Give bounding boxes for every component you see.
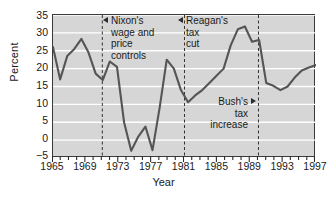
x-tick-label: 1993	[270, 160, 293, 172]
y-tick-label: 20	[26, 62, 48, 72]
y-tick-label: 35	[26, 10, 48, 20]
y-tick-label: 10	[26, 98, 48, 108]
chart-figure: Percent 35 30 25 20 15 10 5 0 −5 1965196…	[0, 0, 327, 197]
y-tick-label: 0	[26, 133, 48, 143]
x-tick-label: 1973	[106, 160, 129, 172]
x-axis-label: Year	[0, 176, 327, 188]
annotation-reagan-line3: cut	[186, 38, 228, 50]
annotation-bush-line2: tax	[190, 108, 248, 120]
annotation-nixon-line3: price	[111, 38, 154, 50]
annotation-nixon: Nixon's wage and price controls	[103, 15, 154, 61]
x-tick-label: 1985	[205, 160, 228, 172]
arrow-left-icon	[103, 17, 108, 23]
x-tick-label: 1989	[238, 160, 261, 172]
y-tick-label: 5	[26, 115, 48, 125]
annotation-reagan-line2: tax	[186, 27, 228, 39]
annotation-bush: Bush's tax increase	[190, 96, 256, 131]
y-tick-label: 25	[26, 45, 48, 55]
x-tick-label: 1977	[139, 160, 162, 172]
annotation-nixon-line1: Nixon's	[103, 15, 154, 27]
arrow-right-icon	[251, 98, 256, 104]
annotation-reagan-line1: Reagan's	[178, 15, 228, 27]
arrow-left-icon	[178, 17, 183, 23]
y-axis-label: Percent	[8, 32, 20, 92]
y-tick-label: −5	[26, 150, 48, 160]
annotation-bush-line3: increase	[190, 119, 248, 131]
annotation-bush-line1: Bush's	[190, 96, 256, 108]
annotation-reagan: Reagan's tax cut	[178, 15, 228, 50]
x-tick-label: 1981	[172, 160, 195, 172]
y-tick-label: 15	[26, 80, 48, 90]
y-tick-label: 30	[26, 27, 48, 37]
annotation-nixon-line2: wage and	[111, 27, 154, 39]
x-tick-label: 1997	[303, 160, 326, 172]
x-tick-label: 1969	[73, 160, 96, 172]
x-tick-label: 1965	[40, 160, 63, 172]
annotation-nixon-line4: controls	[111, 50, 154, 62]
